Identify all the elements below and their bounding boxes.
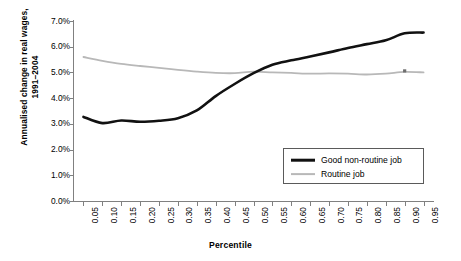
x-tick-mark xyxy=(348,202,349,206)
legend-item-routine-job: Routine job xyxy=(290,167,418,181)
x-tick-label: 0.10 xyxy=(108,207,120,239)
x-tick-mark xyxy=(159,202,160,206)
x-tick-label: 0.15 xyxy=(127,207,139,239)
x-tick-label: 0.65 xyxy=(316,207,328,239)
gray-line-swatch-icon xyxy=(290,169,316,179)
x-tick-mark xyxy=(424,202,425,206)
y-tick-label: 6.0% xyxy=(36,42,70,51)
x-tick-label: 0.55 xyxy=(278,207,290,239)
black-line-swatch-icon xyxy=(290,155,316,165)
y-tick-label: 0.0% xyxy=(36,197,70,206)
x-tick-label: 0.30 xyxy=(183,207,195,239)
chart-legend: Good non-routine job Routine job xyxy=(283,148,424,184)
marker-dot xyxy=(403,69,406,72)
x-tick-label: 0.75 xyxy=(353,207,365,239)
y-tick-label: 7.0% xyxy=(36,17,70,26)
series-line-good-non-routine-job xyxy=(83,33,423,124)
legend-item-good-non-routine-job: Good non-routine job xyxy=(290,153,418,167)
x-tick-mark xyxy=(254,202,255,206)
x-tick-mark xyxy=(216,202,217,206)
legend-label: Routine job xyxy=(316,169,364,179)
x-tick-label: 0.70 xyxy=(335,207,347,239)
x-tick-mark xyxy=(178,202,179,206)
x-tick-label: 0.25 xyxy=(165,207,177,239)
x-axis-ticklabels: 0.050.100.150.200.250.300.350.400.450.50… xyxy=(74,207,433,239)
x-tick-mark xyxy=(102,202,103,206)
y-tick-label: 1.0% xyxy=(36,171,70,180)
y-tick-label: 3.0% xyxy=(36,119,70,128)
y-tick-label: 4.0% xyxy=(36,94,70,103)
x-tick-mark xyxy=(291,202,292,206)
legend-label: Good non-routine job xyxy=(316,155,402,165)
x-tick-mark xyxy=(235,202,236,206)
x-tick-label: 0.80 xyxy=(372,207,384,239)
x-tick-mark xyxy=(386,202,387,206)
x-tick-mark xyxy=(310,202,311,206)
y-tick-label: 5.0% xyxy=(36,68,70,77)
x-tick-mark xyxy=(83,202,84,206)
x-tick-label: 0.20 xyxy=(146,207,158,239)
x-tick-label: 0.35 xyxy=(202,207,214,239)
x-tick-mark xyxy=(367,202,368,206)
x-tick-mark xyxy=(140,202,141,206)
x-tick-mark xyxy=(197,202,198,206)
x-tick-label: 0.50 xyxy=(259,207,271,239)
x-tick-mark xyxy=(121,202,122,206)
x-axis-title: Percentile xyxy=(0,240,461,250)
x-tick-label: 0.05 xyxy=(89,207,101,239)
x-tick-mark xyxy=(405,202,406,206)
x-tick-label: 0.95 xyxy=(429,207,441,239)
x-tick-mark xyxy=(329,202,330,206)
chart-figure: Annualised change in real wages, 1991–20… xyxy=(0,0,461,261)
x-tick-label: 0.60 xyxy=(297,207,309,239)
y-tick-label: 2.0% xyxy=(36,145,70,154)
y-axis-ticklabels: 0.0%1.0%2.0%3.0%4.0%5.0%6.0%7.0% xyxy=(36,0,70,261)
x-tick-mark xyxy=(272,202,273,206)
x-tick-label: 0.90 xyxy=(410,207,422,239)
x-tick-label: 0.45 xyxy=(240,207,252,239)
x-tick-label: 0.85 xyxy=(391,207,403,239)
x-tick-label: 0.40 xyxy=(221,207,233,239)
